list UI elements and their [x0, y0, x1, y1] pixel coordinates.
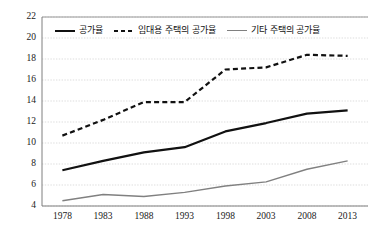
legend-entry-2: 기타 주택의 공가율	[227, 26, 321, 35]
x-axis-tick-label: 1998	[205, 212, 245, 222]
x-axis-tick-label: 1978	[42, 212, 82, 222]
chart-legend: 공가율임대용 주택의 공가율기타 주택의 공가율	[55, 26, 331, 35]
series-line-2	[62, 161, 347, 201]
series-lines	[62, 55, 347, 201]
legend-entry-0: 공가율	[55, 26, 103, 35]
x-axis-tick-label: 1993	[165, 212, 205, 222]
plot-area	[0, 0, 380, 238]
legend-label: 공가율	[79, 26, 103, 35]
x-axis-tick-label: 2003	[246, 212, 286, 222]
legend-label: 기타 주택의 공가율	[251, 26, 321, 35]
dashed-line-icon	[114, 26, 134, 35]
x-axis-tick-label: 2013	[328, 212, 368, 222]
x-axis-tick-label: 1988	[124, 212, 164, 222]
axis-lines	[42, 17, 368, 206]
legend-label: 임대용 주택의 공가율	[138, 26, 216, 35]
series-line-1	[62, 55, 347, 136]
solid-dark-line-icon	[55, 26, 75, 35]
legend-entry-1: 임대용 주택의 공가율	[114, 26, 216, 35]
gridlines	[42, 17, 368, 206]
vacancy-rate-line-chart: 22201816141210864 공가율임대용 주택의 공가율기타 주택의 공…	[0, 0, 380, 238]
x-axis-tick-label: 1983	[83, 212, 123, 222]
x-axis-tick-label: 2008	[287, 212, 327, 222]
solid-gray-line-icon	[227, 26, 247, 35]
